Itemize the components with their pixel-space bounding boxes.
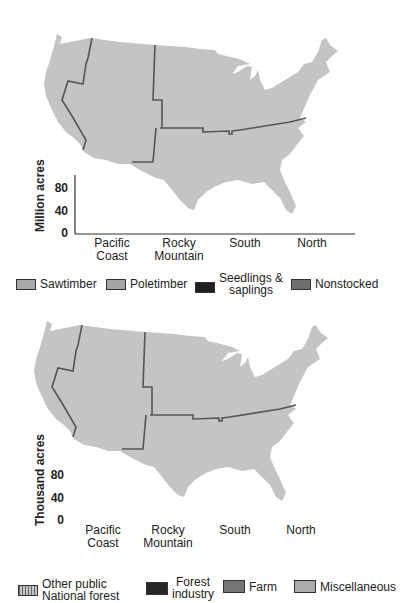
- category-south: South: [210, 237, 280, 250]
- legend-other-public-national-forest: Other public National forest: [18, 578, 119, 602]
- category-north: North: [266, 524, 336, 537]
- y-tick-40: 40: [42, 491, 64, 505]
- seedlings-swatch: [195, 282, 215, 293]
- y-tick-80: 80: [46, 181, 68, 195]
- legend-poletimber: Poletimber: [106, 278, 187, 290]
- nonstocked-swatch: [291, 279, 311, 290]
- poletimber-swatch: [106, 279, 126, 290]
- y-tick-0: 0: [46, 226, 68, 240]
- y-tick-80: 80: [42, 468, 64, 482]
- sawtimber-swatch: [16, 279, 36, 290]
- bar-chart-thousand-acres: [0, 300, 402, 599]
- y-tick-40: 40: [46, 204, 68, 218]
- sawtimber-panel: Million acres 0 40 80 Pacific Coast Rock…: [0, 0, 402, 300]
- legend-sawtimber: Sawtimber: [16, 278, 97, 290]
- category-north: North: [277, 237, 347, 250]
- miscellaneous-swatch: [294, 580, 316, 593]
- legend-miscellaneous: Miscellaneous: [294, 580, 396, 593]
- farm-swatch: [223, 580, 245, 593]
- y-axis-label: Million acres: [33, 159, 47, 232]
- y-tick-0: 0: [42, 513, 64, 527]
- forest-industry-swatch: [146, 582, 168, 595]
- category-pacific-coast: Pacific Coast: [77, 237, 147, 263]
- public-swatch: [18, 585, 38, 596]
- category-south: South: [200, 524, 270, 537]
- category-rocky-mountain: Rocky Mountain: [133, 524, 203, 550]
- legend-nonstocked: Nonstocked: [291, 278, 378, 290]
- ownership-panel: Thousand acres 0 40 80 Pacific Coast Roc…: [0, 300, 402, 599]
- legend-farm: Farm: [223, 580, 277, 593]
- legend-seedlings-saplings: Seedlings & saplings: [195, 272, 283, 296]
- category-pacific-coast: Pacific Coast: [68, 524, 138, 550]
- legend-forest-industry: Forest industry: [146, 576, 214, 600]
- category-rocky-mountain: Rocky Mountain: [144, 237, 214, 263]
